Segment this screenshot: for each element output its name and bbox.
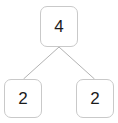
tree-node-left-child-label: 2: [18, 90, 27, 107]
tree-node-root[interactable]: 4: [40, 6, 78, 47]
tree-node-right-child[interactable]: 2: [76, 79, 114, 118]
tree-node-left-child[interactable]: 2: [4, 79, 42, 118]
tree-node-root-label: 4: [54, 18, 63, 35]
edge-root-to-right: [59, 47, 95, 79]
edge-root-to-left: [24, 47, 60, 79]
binary-tree-diagram: 4 2 2: [0, 0, 118, 123]
tree-node-right-child-label: 2: [90, 90, 99, 107]
